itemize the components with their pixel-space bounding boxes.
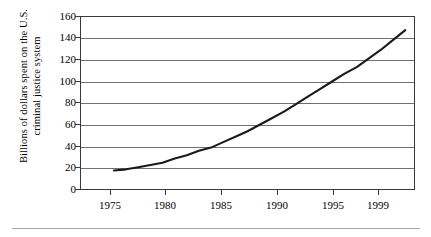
y-tick-label-160: 160 — [40, 11, 76, 22]
x-tick-mark-1999 — [378, 190, 379, 195]
x-tick-mark-1975 — [110, 190, 111, 195]
y-tick-label-100: 100 — [40, 76, 76, 87]
x-tick-mark-1995 — [333, 190, 334, 195]
x-tick-mark-1985 — [221, 190, 222, 195]
y-tick-label-0: 0 — [40, 184, 76, 195]
x-tick-label-1980: 1980 — [143, 200, 187, 211]
x-tick-label-1975: 1975 — [88, 200, 132, 211]
criminal-justice-spending-line — [114, 30, 405, 170]
y-tick-label-20: 20 — [40, 162, 76, 173]
x-tick-label-1995: 1995 — [311, 200, 355, 211]
y-tick-label-120: 120 — [40, 54, 76, 65]
data-series-line — [80, 16, 415, 190]
y-tick-label-60: 60 — [40, 119, 76, 130]
x-tick-mark-1980 — [165, 190, 166, 195]
x-tick-label-1999: 1999 — [356, 200, 400, 211]
x-tick-label-1990: 1990 — [255, 200, 299, 211]
x-tick-mark-1990 — [277, 190, 278, 195]
y-tick-label-80: 80 — [40, 97, 76, 108]
y-tick-label-140: 140 — [40, 32, 76, 43]
x-tick-label-1985: 1985 — [199, 200, 243, 211]
y-tick-label-40: 40 — [40, 141, 76, 152]
footer-divider — [12, 228, 420, 229]
chart-figure: Billions of dollars spent on the U.S. cr… — [0, 0, 431, 237]
